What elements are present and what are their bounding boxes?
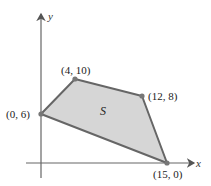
- y-axis-label: y: [47, 10, 53, 22]
- vertex-label-4-10: (4, 10): [61, 64, 91, 77]
- vertex-0-6: [38, 111, 43, 116]
- vertex-15-0: [164, 160, 169, 165]
- vertex-12-8: [139, 93, 144, 98]
- region-label: S: [100, 104, 106, 118]
- vertex-label-12-8: (12, 8): [148, 90, 178, 103]
- coordinate-plane: y x (0, 6) (4, 10) (12, 8) (15, 0) S: [0, 0, 211, 186]
- vertex-4-10: [72, 76, 77, 81]
- vertex-label-15-0: (15, 0): [153, 168, 183, 181]
- x-axis-label: x: [195, 157, 201, 169]
- vertex-label-0-6: (0, 6): [6, 108, 30, 121]
